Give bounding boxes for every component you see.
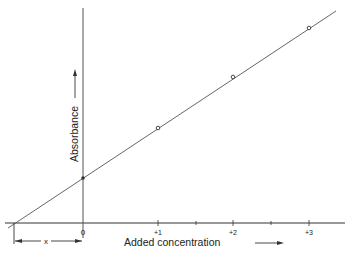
tick-label-0: 0 <box>81 228 86 237</box>
standard-addition-plot: x 0 +1 +2 +3 Added concentration Absorba… <box>0 0 354 255</box>
arrowhead-left-icon <box>15 239 22 243</box>
tick-label-3: +3 <box>305 229 313 236</box>
x-marker-label: x <box>44 237 48 246</box>
y-axis-label: Absorbance <box>68 106 80 162</box>
x-axis-label: Added concentration <box>124 236 220 248</box>
tick-label-2: +2 <box>229 229 237 236</box>
arrowhead-right-icon <box>277 241 284 245</box>
regression-line <box>8 11 336 228</box>
arrowhead-up-icon <box>73 69 77 76</box>
data-point <box>156 126 160 130</box>
data-point <box>81 176 85 180</box>
data-point <box>231 75 235 79</box>
tick-label-1: +1 <box>154 229 162 236</box>
arrowhead-right-icon <box>75 239 82 243</box>
data-point <box>307 26 311 30</box>
